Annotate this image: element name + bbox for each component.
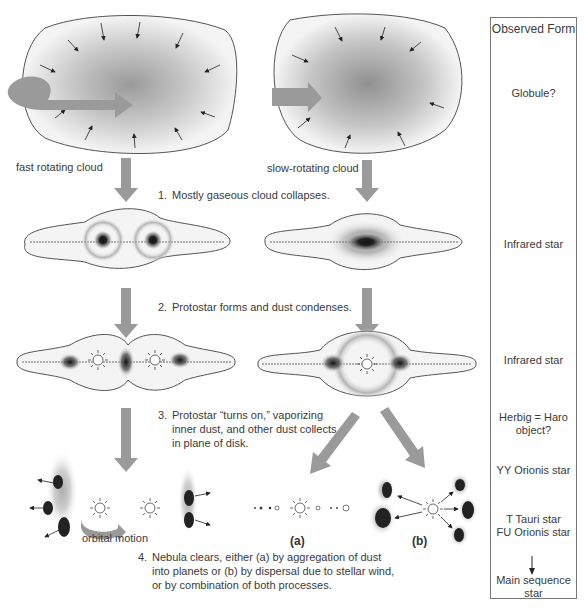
fast-disk-stars-on	[17, 334, 235, 390]
observed-infrared-star-1: Infrared star	[491, 238, 576, 251]
observed-yy-orionis: YY Orionis star	[491, 464, 576, 477]
observed-main-sequence: Main sequence star	[491, 574, 576, 600]
observed-globule: Globule?	[491, 87, 576, 100]
step-1: 1.Mostly gaseous cloud collapses.	[158, 188, 330, 202]
observed-herbig-haro: Herbig = Haro object?	[491, 411, 576, 437]
branch-b-label: (b)	[412, 534, 427, 548]
step-3: 3.Protostar “turns on,” vaporizing inner…	[158, 408, 336, 450]
slow-disk-star-on	[258, 328, 476, 400]
branch-a-label: (a)	[290, 534, 305, 548]
observed-form-column: Observed Form Globule? Infrared star Inf…	[490, 17, 577, 599]
planet-aggregation-a	[254, 498, 349, 518]
observed-infrared-star-2: Infrared star	[491, 354, 576, 367]
slow-rotating-cloud-label: slow-rotating cloud	[267, 162, 359, 175]
step-4: 4.Nebula clears, either (a) by aggregati…	[138, 550, 394, 592]
slow-disk-protostar	[265, 214, 462, 270]
slow-rotating-cloud	[272, 14, 462, 153]
observed-form-header: Observed Form	[491, 23, 576, 36]
orbital-motion-label: orbital motion	[82, 532, 148, 545]
step-2: 2.Protostar forms and dust condenses.	[158, 300, 352, 314]
fast-disk-protostars	[25, 209, 230, 269]
fast-rotating-cloud-label: fast rotating cloud	[16, 161, 103, 174]
observed-t-tauri-fu-orionis: T Tauri star FU Orionis star	[491, 513, 576, 539]
fast-rotating-cloud	[8, 15, 237, 153]
